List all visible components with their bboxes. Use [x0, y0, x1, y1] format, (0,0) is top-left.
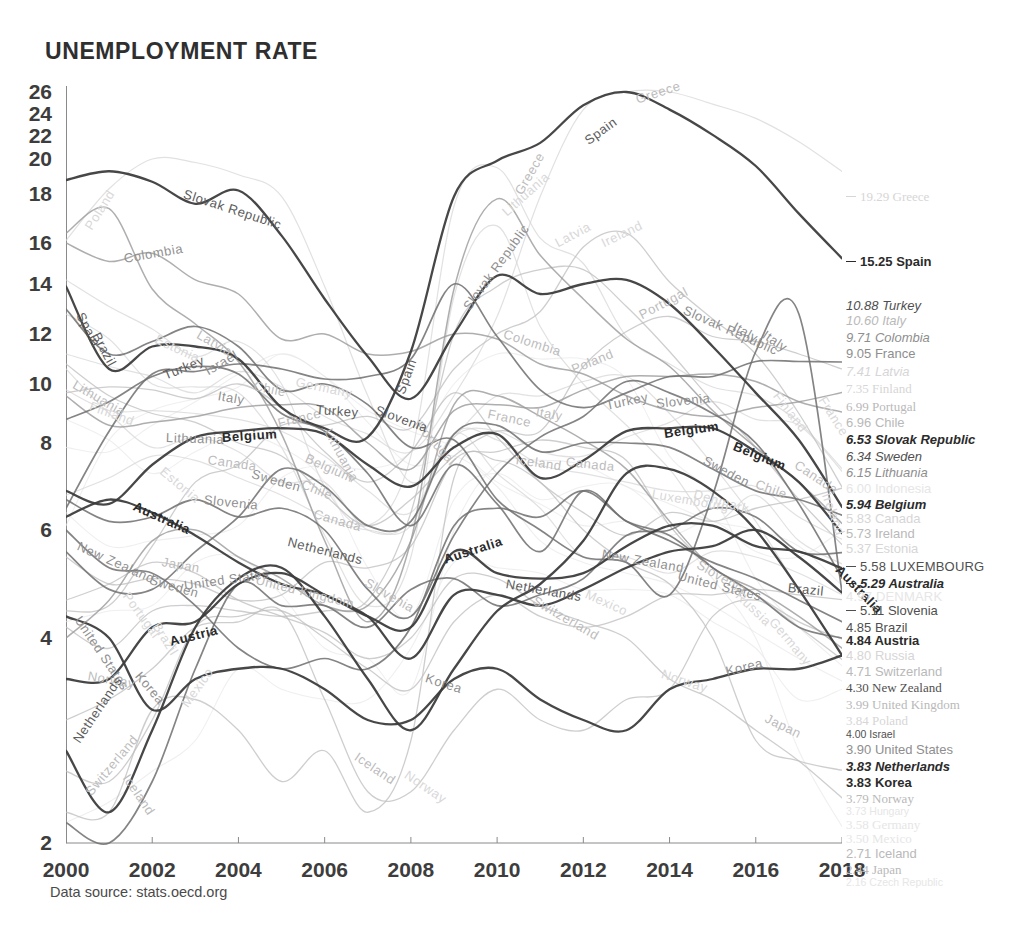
end-label-text: 2.44 Japan [846, 862, 902, 877]
inline-series-label: Mexico [178, 665, 216, 710]
inline-series-label: Slovak Republic [460, 221, 532, 313]
end-label[interactable]: 5.37 Estonia [846, 542, 918, 555]
end-label-text: 6.53 Slovak Republic [846, 432, 975, 447]
y-axis-tick-label: 14 [29, 272, 52, 296]
end-label-text: 6.34 Sweden [846, 449, 922, 464]
end-label[interactable]: 6.15 Lithuania [846, 466, 928, 479]
x-axis-tick-label: 2000 [43, 858, 90, 882]
inline-series-label: Chile [753, 476, 789, 501]
end-label[interactable]: 7.41 Latvia [846, 365, 910, 378]
end-label[interactable]: 6.96 Chile [846, 416, 905, 429]
x-axis-tick-label: 2010 [474, 858, 521, 882]
end-label[interactable]: 3.90 United States [846, 743, 953, 756]
inline-series-label: Spain [582, 114, 620, 147]
end-label[interactable]: 6.34 Sweden [846, 450, 922, 463]
inline-series-label: Belgium [663, 418, 720, 441]
inline-series-label: Estonia [157, 464, 203, 506]
end-label[interactable]: 6.99 Portugal [846, 400, 916, 413]
y-axis-tick-label: 18 [29, 182, 52, 206]
end-label[interactable]: 19.29 Greece [860, 190, 929, 203]
end-label[interactable]: 3.58 Germany [846, 818, 920, 831]
inline-series-label: United Kingdom [254, 572, 356, 611]
inline-series-label: Canada [565, 454, 615, 474]
end-label[interactable]: 2.16 Czech Republic [846, 877, 943, 888]
inline-series-label: New Zealand [601, 546, 686, 575]
end-label[interactable]: 5.11 Slovenia [860, 604, 938, 617]
end-label[interactable]: 10.60 Italy [846, 314, 906, 327]
end-label[interactable]: 4.84 Austria [846, 634, 919, 647]
end-label[interactable]: 4.71 Switzerland [846, 665, 942, 678]
inline-series-label: Lithuania [166, 430, 225, 447]
y-axis-tick-label: 20 [29, 147, 52, 171]
end-label[interactable]: 6.00 Indonesia [846, 482, 931, 495]
x-axis-tick-label: 2012 [560, 858, 607, 882]
y-axis-tick-label: 10 [29, 372, 52, 396]
inline-series-label: Canada [207, 452, 258, 474]
inline-series-label: Slovenia [362, 575, 417, 615]
end-label[interactable]: 2.44 Japan [846, 863, 902, 876]
inline-series-label: Japan [763, 711, 804, 741]
x-axis-tick-label: 2016 [732, 858, 779, 882]
inline-series-label: Japan [161, 554, 201, 575]
leader-line [846, 566, 856, 567]
end-label-text: 6.00 Indonesia [846, 481, 931, 496]
inline-series-label: Belgium [731, 439, 788, 474]
end-label[interactable]: 5.73 Ireland [846, 527, 915, 540]
inline-series-label: Canada [312, 506, 363, 534]
end-label[interactable]: 9.05 France [846, 347, 915, 360]
end-label[interactable]: 4.30 New Zealand [846, 681, 942, 694]
end-label[interactable]: 3.99 United Kingdom [846, 698, 960, 711]
inline-series-label: Sweden [250, 466, 303, 494]
end-label-text: 4.00 Israel [846, 728, 895, 740]
end-label-text: 3.83 Netherlands [846, 759, 950, 774]
inline-series-label: Finland [770, 389, 811, 435]
end-label-text: 5.73 Ireland [846, 526, 915, 541]
end-label[interactable]: 3.83 Netherlands [846, 760, 950, 773]
end-label-text: 3.83 Korea [846, 775, 912, 790]
inline-series-label: Korea [132, 669, 168, 708]
end-label[interactable]: 15.25 Spain [860, 255, 932, 268]
end-value-labels: 19.29 Greece15.25 Spain10.88 Turkey10.60… [846, 86, 1034, 876]
inline-series-label: Brazil [89, 330, 119, 369]
end-label-text: 4.30 New Zealand [846, 680, 942, 695]
inline-series-label: Slovenia [373, 402, 430, 435]
end-label-text: 4.71 Switzerland [846, 664, 942, 679]
end-label[interactable]: 4.00 Israel [846, 729, 895, 740]
inline-series-label: Brazil [787, 580, 824, 599]
inline-series-label: Luxembourg [651, 486, 731, 514]
y-axis-tick-label: 4 [40, 626, 52, 650]
end-label[interactable]: 3.79 Norway [846, 792, 914, 805]
end-label-text: 5.83 Canada [846, 511, 920, 526]
end-label[interactable]: 10.88 Turkey [846, 299, 921, 312]
end-label[interactable]: 5.94 Belgium [846, 498, 926, 511]
end-label-text: 9.05 France [846, 346, 915, 361]
y-axis-tick-label: 12 [29, 322, 52, 346]
end-label[interactable]: 5.83 Canada [846, 512, 920, 525]
inline-series-label: Slovak Republic [182, 186, 284, 232]
inline-series-label: Australia [442, 534, 505, 567]
end-label[interactable]: 3.73 Hungary [846, 806, 909, 817]
x-axis-tick-label: 2004 [215, 858, 262, 882]
end-label[interactable]: 7.35 Finland [846, 382, 912, 395]
end-label[interactable]: 5.58 LUXEMBOURG [860, 560, 984, 573]
end-label[interactable]: 2.71 Iceland [846, 847, 917, 860]
end-label[interactable]: 3.50 Mexico [846, 832, 912, 845]
end-label-text: 4.80 Russia [846, 648, 915, 663]
end-label[interactable]: 4.97 DENMARK [846, 590, 942, 603]
end-label-text: 3.84 Poland [846, 713, 908, 728]
end-label[interactable]: 3.83 Korea [846, 776, 912, 789]
inline-series-label: New Zealand [75, 539, 157, 587]
inline-series-label: Ireland [599, 217, 645, 250]
inline-series-label: Poland [569, 346, 616, 376]
end-label-text: 3.79 Norway [846, 791, 914, 806]
end-label-text: 5.11 Slovenia [860, 603, 938, 618]
end-label[interactable]: 4.80 Russia [846, 649, 915, 662]
end-label-text: 4.97 DENMARK [846, 589, 942, 604]
end-label[interactable]: 3.84 Poland [846, 714, 908, 727]
end-label[interactable]: 6.53 Slovak Republic [846, 433, 975, 446]
end-label-text: 3.73 Hungary [846, 805, 909, 817]
end-label[interactable]: 9.71 Colombia [846, 331, 930, 344]
inline-series-label: Australia [131, 499, 193, 538]
end-label-text: 7.35 Finland [846, 381, 912, 396]
end-label-text: 3.99 United Kingdom [846, 697, 960, 712]
